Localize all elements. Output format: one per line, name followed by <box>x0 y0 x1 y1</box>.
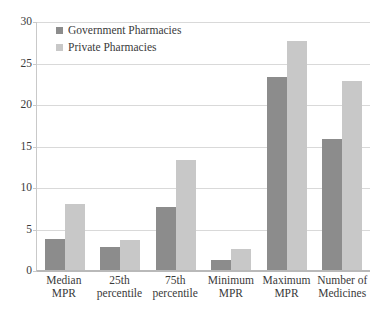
y-tick-mark-0 <box>33 271 37 272</box>
bar-group <box>93 22 149 270</box>
x-axis-labels: MedianMPR25thpercentile75thpercentileMin… <box>36 274 370 300</box>
x-axis-label: MinimumMPR <box>203 274 259 300</box>
bar-group <box>37 22 93 270</box>
y-tick-label-0: 0 <box>26 265 32 277</box>
chart-legend: Government PharmaciesPrivate Pharmacies <box>56 24 181 54</box>
bar-groups <box>37 22 370 270</box>
x-axis-label: MaximumMPR <box>259 274 315 300</box>
legend-label: Government Pharmacies <box>68 24 181 37</box>
y-tick-label-10: 10 <box>21 182 33 194</box>
bar <box>322 139 342 270</box>
x-axis-label: 25thpercentile <box>92 274 148 300</box>
y-tick-label-30: 30 <box>21 16 33 28</box>
bar-group <box>315 22 371 270</box>
x-axis-label-line: percentile <box>148 287 202 300</box>
x-axis-label-line: percentile <box>93 287 147 300</box>
x-axis-label-line: MPR <box>260 287 314 300</box>
plot-area: 302520151050 <box>36 22 370 271</box>
bar <box>211 260 231 270</box>
x-axis-label: 75thpercentile <box>147 274 203 300</box>
figure: 302520151050 Government PharmaciesPrivat… <box>0 0 377 324</box>
bar-group <box>259 22 315 270</box>
bar-group <box>148 22 204 270</box>
bar <box>342 81 362 270</box>
bar <box>287 41 307 270</box>
legend-swatch-icon <box>56 44 63 51</box>
bar <box>120 240 140 270</box>
x-axis-label-line: Maximum <box>260 274 314 287</box>
y-tick-label-5: 5 <box>26 224 32 236</box>
x-axis-label-line: 25th <box>93 274 147 287</box>
legend-item: Private Pharmacies <box>56 41 181 54</box>
x-axis-label-line: 75th <box>148 274 202 287</box>
y-tick-label-20: 20 <box>21 99 33 111</box>
bar-group <box>204 22 260 270</box>
x-axis-label-line: Minimum <box>204 274 258 287</box>
legend-item: Government Pharmacies <box>56 24 181 37</box>
x-axis-label-line: Number of <box>315 274 369 287</box>
bar-chart: 302520151050 Government PharmaciesPrivat… <box>0 0 377 300</box>
bar <box>100 247 120 270</box>
bar <box>231 249 251 270</box>
bar <box>156 207 176 270</box>
x-axis-label: MedianMPR <box>36 274 92 300</box>
bar <box>65 204 85 270</box>
x-axis-label-line: Median <box>37 274 91 287</box>
bar <box>176 160 196 270</box>
x-axis-label-line: MPR <box>37 287 91 300</box>
x-axis-label-line: Medicines <box>315 287 369 300</box>
bar <box>267 77 287 270</box>
bar <box>45 239 65 270</box>
x-axis-label: Number ofMedicines <box>314 274 370 300</box>
gridline-0 <box>37 271 370 272</box>
legend-swatch-icon <box>56 27 63 34</box>
x-axis-label-line: MPR <box>204 287 258 300</box>
y-tick-label-25: 25 <box>21 58 33 70</box>
legend-label: Private Pharmacies <box>68 41 156 54</box>
y-tick-label-15: 15 <box>21 141 33 153</box>
